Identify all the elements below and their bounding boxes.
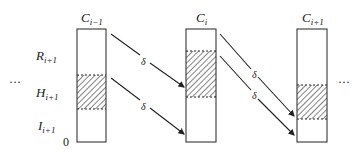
column-label-c-i-minus-1: Ci−1 bbox=[81, 10, 103, 27]
row-label-h: Hi+1 bbox=[35, 85, 58, 102]
row-label-r: Ri+1 bbox=[35, 48, 57, 65]
delta-label: δ bbox=[252, 90, 257, 101]
column-c-i-plus-1 bbox=[297, 29, 327, 142]
column-label-c-i-plus-1: Ci+1 bbox=[302, 10, 324, 27]
delta-label: δ bbox=[141, 56, 146, 67]
column-c-i bbox=[186, 29, 216, 142]
row-label-i: Ii+1 bbox=[37, 118, 55, 135]
delta-label: δ bbox=[252, 69, 257, 80]
ellipsis-right: ··· bbox=[338, 75, 350, 89]
column-c-i-minus-1 bbox=[77, 29, 106, 142]
column-label-c-i: Ci bbox=[196, 10, 208, 27]
arrow-1-lower: δ bbox=[111, 78, 184, 134]
diagram-canvas: Ci−1 Ci Ci+1 Ri+1 Hi+1 Ii+1 0 ··· ··· δ … bbox=[0, 0, 360, 152]
ellipsis-left: ··· bbox=[9, 75, 21, 89]
arrow-1-upper: δ bbox=[111, 34, 184, 87]
arrow-2-upper: δ bbox=[220, 34, 294, 116]
arrow-2-lower: δ bbox=[220, 56, 294, 135]
origin-label: 0 bbox=[63, 135, 69, 149]
delta-label: δ bbox=[141, 101, 146, 112]
